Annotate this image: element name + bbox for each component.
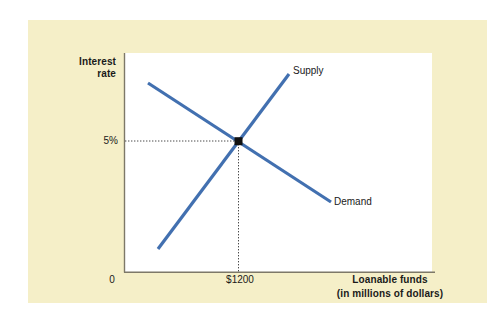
y-axis-label-line2: rate xyxy=(97,68,116,79)
y-axis-tick-5-percent: 5% xyxy=(96,135,118,147)
equilibrium-point-marker xyxy=(235,137,243,145)
x-axis-tick-equilibrium-quantity: $1200 xyxy=(212,274,268,286)
loanable-funds-market-figure: Interestrate 5% 0 $1200 Loanable funds(i… xyxy=(0,0,502,325)
y-axis-label: Interestrate xyxy=(52,56,116,80)
supply-curve-label: Supply xyxy=(293,65,324,77)
x-axis-label-line2: (in millions of dollars) xyxy=(296,288,484,300)
y-axis-label-line1: Interest xyxy=(79,56,116,67)
demand-curve-label: Demand xyxy=(334,196,372,208)
x-axis-label: Loanable funds(in millions of dollars) xyxy=(296,274,484,300)
x-axis-tick-origin: 0 xyxy=(104,274,120,286)
x-axis-label-line1: Loanable funds xyxy=(352,274,427,285)
